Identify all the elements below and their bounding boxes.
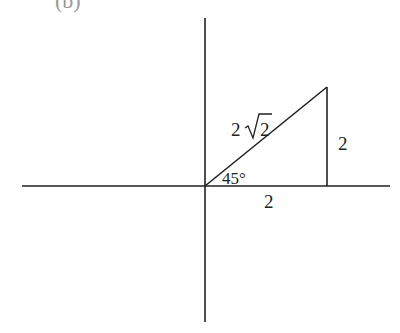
vertical-side-label: 2 <box>338 134 348 153</box>
hypotenuse-label: 2 2 <box>231 120 241 139</box>
horizontal-side-label: 2 <box>264 192 274 211</box>
diagram-canvas <box>0 0 400 333</box>
angle-label: 45° <box>222 170 246 187</box>
hyp-coefficient: 2 <box>231 119 241 140</box>
hyp-radicand: 2 <box>260 120 270 139</box>
